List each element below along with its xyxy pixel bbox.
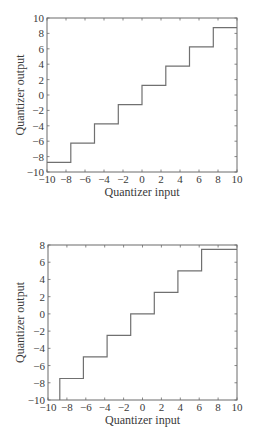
- x-tick-label: 0: [139, 173, 145, 185]
- y-tick-label: −4: [32, 120, 44, 132]
- y-tick-label: 2: [40, 291, 46, 303]
- y-tick-label: 10: [33, 12, 45, 24]
- quantizer-step-line: [47, 28, 237, 163]
- plot-frame: [48, 245, 237, 400]
- quantizer-step-line: [60, 249, 237, 400]
- x-tick-label: 2: [159, 401, 165, 413]
- x-tick-label: 0: [140, 401, 146, 413]
- y-tick-label: −8: [33, 377, 45, 389]
- y-tick-label: −6: [33, 360, 45, 372]
- y-tick-label: −2: [32, 104, 44, 116]
- x-tick-label: −2: [118, 401, 130, 413]
- x-tick-label: −6: [80, 401, 92, 413]
- x-tick-label: 8: [215, 401, 221, 413]
- x-tick-label: −6: [79, 173, 91, 185]
- x-axis-label: Quantizer input: [105, 413, 181, 427]
- y-tick-label: 8: [40, 239, 46, 251]
- x-axis-label: Quantizer input: [105, 185, 181, 199]
- x-tick-label: 10: [232, 401, 244, 413]
- y-axis: −10−8−6−4−202468: [28, 239, 237, 406]
- y-tick-label: 4: [39, 58, 45, 70]
- x-tick-label: 6: [196, 173, 202, 185]
- chart-plot-midtread: −10−8−6−4−20246810−10−8−6−4−202468Quanti…: [0, 228, 257, 435]
- x-axis: −10−8−6−4−20246810: [38, 18, 243, 185]
- x-axis: −10−8−6−4−20246810: [39, 245, 243, 413]
- x-tick-label: −8: [61, 401, 73, 413]
- x-tick-label: 8: [215, 173, 221, 185]
- y-tick-label: 8: [39, 27, 45, 39]
- y-tick-label: 2: [39, 74, 45, 86]
- y-tick-label: 0: [39, 89, 45, 101]
- y-tick-label: −10: [28, 394, 46, 406]
- y-tick-label: −8: [32, 151, 44, 163]
- x-tick-label: 2: [158, 173, 164, 185]
- y-axis: −10−8−6−4−20246810: [27, 12, 237, 178]
- x-tick-label: −8: [60, 173, 72, 185]
- y-axis-label: Quantizer output: [13, 54, 27, 136]
- y-tick-label: −2: [33, 325, 45, 337]
- x-tick-label: 4: [178, 401, 184, 413]
- y-tick-label: −4: [33, 342, 45, 354]
- chart-plot-midrise: −10−8−6−4−20246810−10−8−6−4−20246810Quan…: [0, 0, 257, 220]
- quantizer-chart-midtread: −10−8−6−4−20246810−10−8−6−4−202468Quanti…: [0, 228, 257, 435]
- x-tick-label: −4: [98, 173, 110, 185]
- quantizer-chart-midrise: −10−8−6−4−20246810−10−8−6−4−20246810Quan…: [0, 0, 257, 220]
- x-tick-label: 6: [196, 401, 202, 413]
- y-tick-label: 0: [40, 308, 46, 320]
- x-tick-label: 10: [232, 173, 244, 185]
- y-tick-label: 6: [39, 43, 45, 55]
- y-tick-label: 6: [40, 256, 46, 268]
- x-tick-label: −2: [117, 173, 129, 185]
- x-tick-label: 4: [177, 173, 183, 185]
- y-axis-label: Quantizer output: [13, 281, 27, 363]
- x-tick-label: −4: [99, 401, 111, 413]
- y-tick-label: −6: [32, 135, 44, 147]
- y-tick-label: 4: [40, 273, 46, 285]
- y-tick-label: −10: [27, 166, 45, 178]
